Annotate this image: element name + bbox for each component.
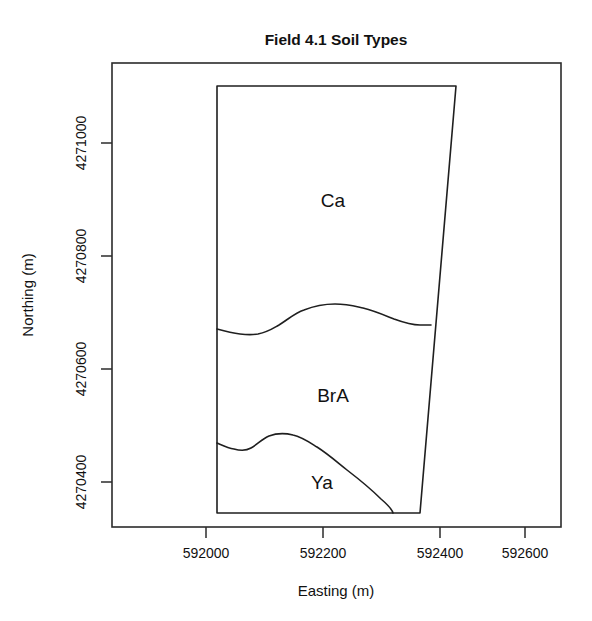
x-tick-label-0: 592000 [183, 545, 230, 561]
x-tick-label-1: 592200 [300, 545, 347, 561]
y-tick-label-1: 4270600 [73, 342, 89, 397]
y-tick-label-3: 4271000 [73, 116, 89, 171]
x-axis-title: Easting (m) [298, 582, 375, 599]
y-axis-title: Northing (m) [19, 253, 36, 336]
x-tick-label-2: 592400 [417, 545, 464, 561]
x-axis-tick-labels: 592000 592200 592400 592600 [183, 545, 549, 561]
plot-canvas: Field 4.1 Soil Types 592000 592200 59240… [0, 0, 592, 621]
plot-frame [112, 63, 561, 527]
x-axis-ticks [206, 527, 525, 538]
soil-boundary-ca-bra [217, 304, 431, 335]
soil-map-plot: Field 4.1 Soil Types 592000 592200 59240… [0, 0, 592, 621]
y-axis-ticks [101, 143, 112, 482]
soil-unit-label-ca: Ca [321, 190, 346, 211]
soil-unit-label-bra: BrA [317, 385, 349, 406]
y-tick-label-0: 4270400 [73, 455, 89, 510]
x-tick-label-3: 592600 [502, 545, 549, 561]
soil-unit-label-ya: Ya [311, 472, 333, 493]
soil-boundary-bra-ya [217, 434, 393, 513]
field-boundary-polygon [217, 86, 456, 513]
page-title: Field 4.1 Soil Types [265, 31, 408, 48]
y-tick-label-2: 4270800 [73, 229, 89, 284]
y-axis-tick-labels: 4271000 4270800 4270600 4270400 [73, 116, 89, 510]
